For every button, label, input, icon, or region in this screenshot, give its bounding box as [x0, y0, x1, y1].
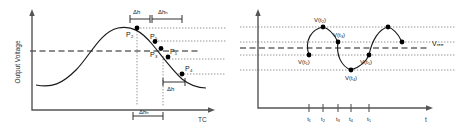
measure-top-right [152, 15, 182, 23]
output-voltage-curve [36, 27, 206, 88]
sample-label-t4: V(t₄) [345, 75, 357, 81]
figure-root: P₂ P₅ P₃ P₁ P₄ Δh Δhₕ [0, 0, 464, 128]
point-label-p4: P₄ [185, 65, 193, 72]
measure-label-bottom: Δhₕ [139, 109, 149, 115]
left-chart-svg: P₂ P₅ P₃ P₁ P₄ Δh Δhₕ [0, 0, 232, 128]
point-label-p3: P₃ [150, 51, 158, 58]
sample-label-t3: V(t₃) [333, 32, 345, 38]
y-axis-arrow-icon [29, 9, 34, 16]
arc-t5-t6 [369, 27, 388, 55]
x-axis-arrow-icon [208, 107, 215, 112]
measure-label-right-lower: Δh [167, 86, 174, 92]
sample-point-t1 [307, 53, 312, 58]
point-label-p5: P₅ [150, 33, 158, 40]
measure-label-top-right: Δhₕ [158, 9, 168, 15]
xtick-label-t1: t₁ [307, 116, 311, 122]
right-x-axis-arrow-icon [426, 105, 433, 110]
xtick-label-t2: t₂ [321, 116, 326, 122]
sample-label-t1: V(t₁) [298, 59, 310, 65]
sample-point-t7 [400, 40, 405, 45]
xtick-label-t4: t₄ [349, 116, 354, 122]
sample-point-t4 [349, 68, 354, 73]
right-chart-svg: Vᵣₑₑ V(t₁) V(t₂) V(t₃) V(t₄) [232, 0, 464, 128]
xtick-label-t5: t₅ [367, 116, 372, 122]
sample-point-t3 [336, 40, 341, 45]
point-p4 [180, 72, 185, 77]
sample-label-t2: V(t₂) [314, 17, 326, 23]
measure-top-left [130, 15, 150, 23]
point-p3 [159, 46, 164, 51]
vref-label: Vᵣₑₑ [432, 40, 444, 47]
right-chart-panel: Vᵣₑₑ V(t₁) V(t₂) V(t₃) V(t₄) [232, 0, 464, 128]
point-p2 [135, 26, 140, 31]
right-x-axis-title: t [425, 116, 427, 123]
point-label-p2: P₂ [126, 31, 134, 38]
xtick-label-t3: t₃ [336, 116, 341, 122]
point-p1 [166, 55, 171, 60]
x-axis-title: TC [198, 116, 207, 123]
point-label-p1: P₁ [170, 48, 178, 55]
sample-point-t2 [321, 25, 326, 30]
sample-label-t5: V(t₅) [360, 59, 372, 65]
measure-label-top-left: Δh [133, 9, 140, 15]
sample-point-t5 [367, 53, 372, 58]
y-axis-title: Output Voltage [14, 40, 22, 83]
sample-point-t6 [386, 25, 391, 30]
arc-t6-t7 [388, 27, 402, 42]
arc-t1-t2 [307, 27, 323, 55]
right-axes [258, 14, 428, 108]
arc-t3-t4 [338, 42, 351, 70]
right-y-axis-arrow-icon [255, 9, 260, 16]
left-chart-panel: P₂ P₅ P₃ P₁ P₄ Δh Δhₕ [0, 0, 232, 128]
